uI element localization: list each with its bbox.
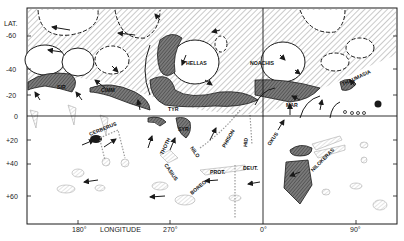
y-tick-label: -60 <box>6 32 16 39</box>
label-syr: SYR <box>178 126 189 132</box>
dark-spot <box>375 101 382 108</box>
y-tick-label: -40 <box>6 66 16 73</box>
label-hid: HID <box>242 137 249 147</box>
x-tick-label: 270° <box>163 226 178 233</box>
y-tick-label: +40 <box>6 160 18 167</box>
x-tick-label: 90° <box>350 226 361 233</box>
mars-wind-map: LAT. -60 -40 -20 0 +20 +40 +60 180° LONG… <box>0 0 404 241</box>
x-tick-label: 0° <box>260 226 267 233</box>
label-mar: MAR <box>286 102 298 108</box>
y-tick-label: +20 <box>6 137 18 144</box>
y-axis-title: LAT. <box>4 20 18 27</box>
y-tick-label: -20 <box>6 92 16 99</box>
y-tick-label: +60 <box>6 193 18 200</box>
label-deut: DEUT. <box>243 165 259 171</box>
x-tick-label: 180° <box>72 226 87 233</box>
x-axis-title: LONGITUDE <box>100 226 141 233</box>
label-cimm: CIMM <box>101 87 115 93</box>
y-tick-label: 0 <box>14 113 18 120</box>
label-hellas: HELLAS <box>186 60 207 66</box>
label-prot: PROT. <box>210 169 226 175</box>
label-tyr: TYR <box>168 106 179 112</box>
label-sir: SIR <box>57 84 66 90</box>
label-noachis: NOACHIS <box>250 60 274 66</box>
